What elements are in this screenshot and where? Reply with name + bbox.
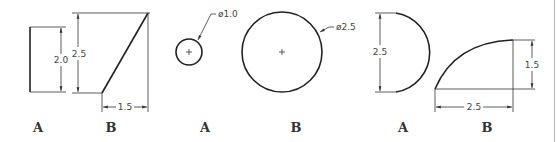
- leader-line: [198, 14, 216, 40]
- dimension-text: 2.5: [373, 47, 387, 57]
- inclined-line: [102, 13, 148, 93]
- arc: [396, 13, 430, 92]
- circle-b-figure: ø2.5 B: [242, 12, 356, 135]
- line-b-figure: 2.5 1.5 B: [72, 13, 150, 135]
- arc-a-figure: 2.5 A: [373, 13, 430, 135]
- dimension-text: 2.5: [72, 49, 86, 59]
- figure-label: B: [291, 120, 302, 135]
- dimension-text: 1.5: [118, 102, 132, 112]
- line-a-figure: 2.0 A: [30, 27, 68, 135]
- figure-label: A: [397, 120, 409, 135]
- figure-label: B: [482, 120, 493, 135]
- circle-a-figure: ø1.0 A: [176, 9, 238, 135]
- diameter-text: ø2.5: [336, 22, 356, 32]
- leader-line: [320, 27, 334, 32]
- figure-label: A: [199, 120, 211, 135]
- drawing-canvas: 2.0 A 2.5 1.5 B ø1.0 A ø2.5 B: [0, 0, 558, 142]
- arc: [435, 40, 513, 89]
- dimension-text: 1.5: [525, 60, 539, 70]
- dimension-text: 2.0: [54, 55, 69, 65]
- figure-label: A: [32, 120, 44, 135]
- figure-label: B: [106, 120, 117, 135]
- diameter-text: ø1.0: [218, 9, 238, 19]
- arc-b-figure: 1.5 2.5 B: [435, 40, 539, 135]
- dimension-text: 2.5: [467, 102, 481, 112]
